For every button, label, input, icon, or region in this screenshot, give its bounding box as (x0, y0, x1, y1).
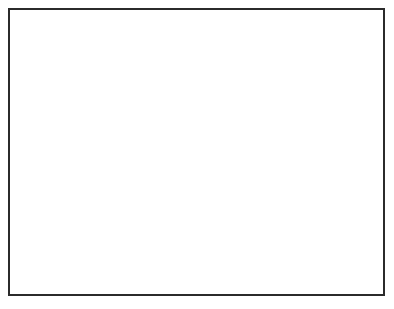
chart-canvas: 0510152025 5060708090100 Subject NP2 No.… (0, 0, 394, 309)
figure-border (8, 8, 385, 296)
